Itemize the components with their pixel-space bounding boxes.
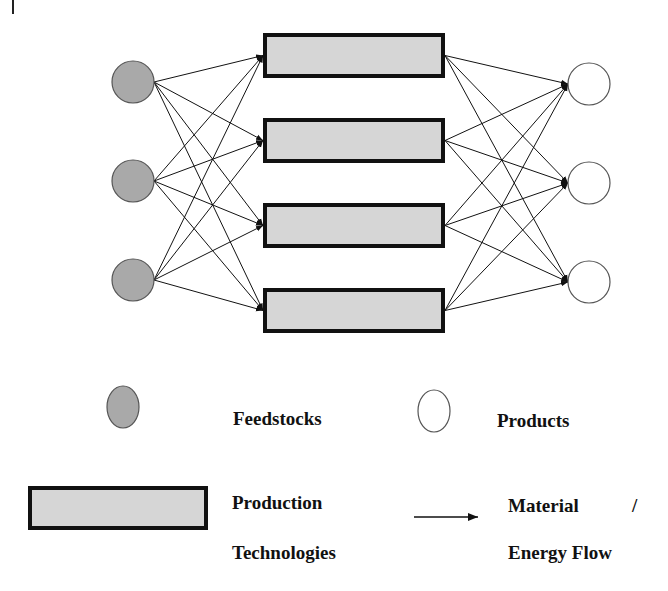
legend-products-label: Products — [497, 410, 569, 432]
flow-edge-T4-P1 — [445, 84, 568, 311]
flow-edge-T1-P3 — [445, 56, 568, 283]
product-node-P3 — [568, 261, 610, 303]
legend-technology-icon — [30, 488, 206, 528]
flow-edge-F3-T4 — [154, 280, 263, 311]
flow-edge-T4-P3 — [445, 282, 568, 311]
legend-product-icon — [418, 390, 450, 432]
flow-nodes — [112, 35, 610, 331]
flow-edge-T1-P1 — [445, 56, 568, 85]
legend-feedstocks-label: Feedstocks — [233, 408, 322, 430]
technology-node-T1 — [265, 35, 443, 76]
flow-edge-T3-P3 — [445, 226, 568, 283]
product-node-P2 — [568, 162, 610, 204]
flow-edge-F1-T3 — [154, 82, 263, 226]
feedstock-node-F2 — [112, 160, 154, 202]
flow-edge-F1-T4 — [154, 82, 263, 311]
technology-node-T2 — [265, 120, 443, 161]
flow-edge-F1-T1 — [154, 56, 263, 83]
flow-edge-F1-T2 — [154, 82, 263, 141]
flow-edge-T4-P2 — [445, 183, 568, 311]
flow-edge-F3-T3 — [154, 226, 263, 281]
legend-flow-label-slash: / — [632, 495, 637, 517]
legend-feedstock-icon — [107, 386, 139, 428]
flow-edge-T1-P2 — [445, 56, 568, 184]
feedstock-node-F3 — [112, 259, 154, 301]
legend-flow-label-line1: Material — [508, 495, 579, 517]
product-node-P1 — [568, 63, 610, 105]
legend-technologies-label-line1: Production — [232, 492, 322, 514]
technology-node-T4 — [265, 290, 443, 331]
flow-edges — [154, 56, 568, 311]
feedstock-node-F1 — [112, 61, 154, 103]
flow-edge-T2-P1 — [445, 84, 568, 141]
legend-technologies-label-line2: Technologies — [232, 542, 336, 564]
technology-node-T3 — [265, 205, 443, 246]
legend-flow-label-line2: Energy Flow — [508, 542, 612, 564]
